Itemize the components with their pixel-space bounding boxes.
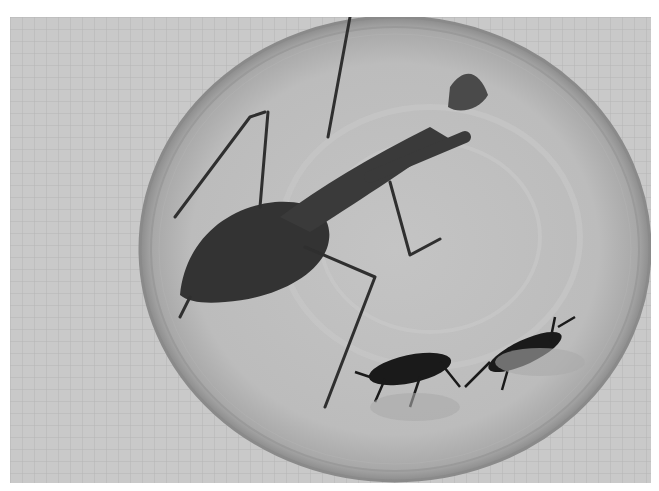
photo-scene: [10, 17, 651, 483]
photograph: [10, 17, 651, 483]
